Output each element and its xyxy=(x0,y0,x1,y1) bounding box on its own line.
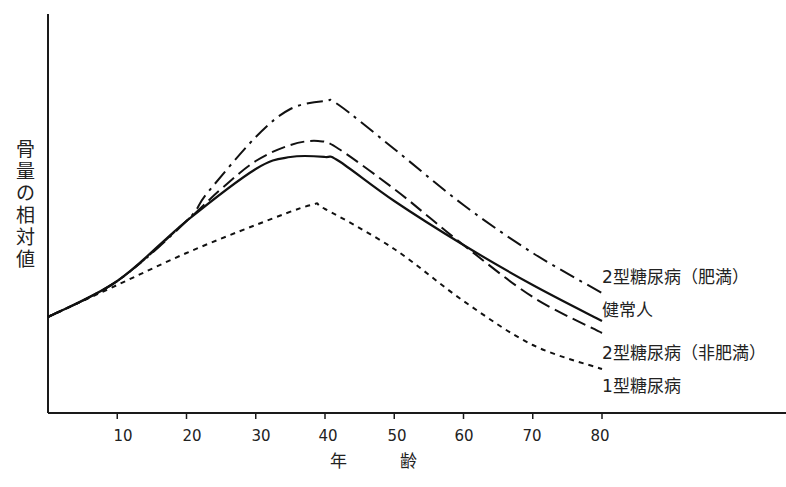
legend-label-type1: 1型糖尿病 xyxy=(602,372,681,397)
ylabel-char: の xyxy=(14,182,36,204)
ylabel-char: 骨 xyxy=(14,138,36,160)
x-tick-label: 20 xyxy=(182,427,201,445)
legend-label-healthy: 健常人 xyxy=(602,296,653,321)
series-lines xyxy=(48,100,602,369)
legend-label-nonobese-type2: 2型糖尿病（非肥満） xyxy=(602,339,766,364)
x-tick-label: 10 xyxy=(113,427,132,445)
series-line-dotted xyxy=(48,203,602,369)
x-axis-label: 年 齢 xyxy=(330,447,435,472)
ylabel-char: 対 xyxy=(14,226,36,248)
ylabel-char: 相 xyxy=(14,204,36,226)
x-tick-label: 80 xyxy=(590,427,609,445)
x-tick-label: 70 xyxy=(522,427,541,445)
legend-label-obese-type2: 2型糖尿病（肥満） xyxy=(602,263,749,288)
x-tick-label: 30 xyxy=(251,427,270,445)
y-axis-label: 骨 量 の 相 対 値 xyxy=(14,138,36,270)
ylabel-char: 量 xyxy=(14,160,36,182)
ylabel-char: 値 xyxy=(14,248,36,270)
x-tick-label: 60 xyxy=(454,427,473,445)
x-tick-label: 40 xyxy=(318,427,337,445)
series-line-dashed xyxy=(48,141,602,333)
x-tick-label: 50 xyxy=(387,427,406,445)
chart-plot-area xyxy=(0,0,786,487)
series-line-solid xyxy=(48,156,602,321)
